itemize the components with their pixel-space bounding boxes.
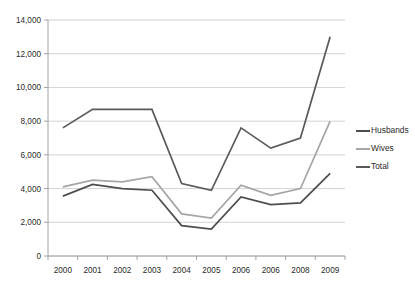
chart-canvas: 02,0004,0006,0008,00010,00012,00014,000 … — [0, 0, 415, 293]
x-axis-ticks: 2000200120022003200420052006200620082009 — [48, 256, 345, 275]
x-axis-tick-label: 2005 — [202, 266, 221, 275]
legend-label-husbands: Husbands — [371, 125, 409, 135]
y-axis-tick-label: 4,000 — [21, 185, 42, 194]
legend-label-wives: Wives — [371, 143, 394, 153]
data-series — [63, 37, 330, 229]
x-axis-tick-label: 2006 — [232, 266, 251, 275]
chart-legend: HusbandsWivesTotal — [356, 125, 409, 171]
x-axis-tick-label: 2009 — [321, 266, 340, 275]
y-axis-tick-label: 0 — [36, 252, 41, 261]
x-axis-tick-label: 2000 — [54, 266, 73, 275]
y-axis-tick-label: 8,000 — [21, 117, 42, 126]
line-chart: 02,0004,0006,0008,00010,00012,00014,000 … — [0, 0, 415, 293]
y-axis-ticks: 02,0004,0006,0008,00010,00012,00014,000 — [16, 16, 48, 261]
x-axis-tick-label: 2002 — [113, 266, 132, 275]
x-axis-tick-label: 2003 — [143, 266, 162, 275]
series-line-husbands — [63, 173, 330, 229]
legend-label-total: Total — [371, 161, 389, 171]
y-axis-tick-label: 12,000 — [16, 50, 41, 59]
x-axis-tick-label: 2008 — [291, 266, 310, 275]
y-axis-tick-label: 14,000 — [16, 16, 41, 25]
series-line-total — [63, 37, 330, 190]
y-axis-tick-label: 2,000 — [21, 218, 42, 227]
y-axis-tick-label: 10,000 — [16, 83, 41, 92]
x-axis-tick-label: 2004 — [173, 266, 192, 275]
x-axis-tick-label: 2006 — [262, 266, 281, 275]
x-axis-tick-label: 2001 — [83, 266, 102, 275]
y-axis-tick-label: 6,000 — [21, 151, 42, 160]
